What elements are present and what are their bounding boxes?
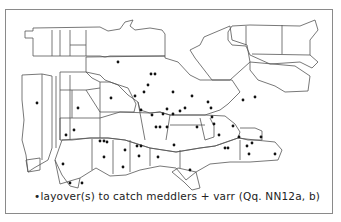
data-dot bbox=[36, 102, 39, 105]
data-dot bbox=[140, 109, 143, 112]
data-dot bbox=[232, 125, 235, 128]
data-dot bbox=[150, 73, 153, 76]
data-dot bbox=[147, 84, 150, 87]
data-dot bbox=[238, 136, 241, 139]
data-dot bbox=[62, 163, 65, 166]
data-dot bbox=[81, 182, 84, 185]
data-dot bbox=[207, 101, 210, 104]
data-dot bbox=[260, 136, 263, 139]
data-dot bbox=[103, 140, 106, 143]
data-dots bbox=[36, 61, 277, 185]
data-dot bbox=[213, 123, 216, 126]
data-dot bbox=[218, 134, 221, 137]
map-caption: •layover(s) to catch meddlers + varr (Qq… bbox=[34, 190, 334, 202]
data-dot bbox=[99, 140, 102, 143]
data-dot bbox=[155, 126, 158, 129]
data-dot bbox=[211, 116, 214, 119]
data-dot bbox=[143, 91, 146, 94]
data-dot bbox=[124, 149, 127, 152]
data-dot bbox=[196, 126, 199, 129]
data-dot bbox=[106, 141, 109, 144]
data-dot bbox=[73, 129, 76, 132]
data-dot bbox=[166, 108, 169, 111]
data-dot bbox=[251, 142, 254, 145]
data-dot bbox=[246, 145, 249, 148]
data-dot bbox=[138, 155, 141, 158]
data-dot bbox=[184, 107, 187, 110]
data-dot bbox=[274, 153, 277, 156]
data-dot bbox=[140, 145, 143, 148]
data-dot bbox=[103, 156, 106, 159]
data-dot bbox=[248, 153, 251, 156]
data-dot bbox=[122, 166, 125, 169]
data-dot bbox=[69, 182, 72, 185]
data-dot bbox=[159, 126, 162, 129]
data-dot bbox=[172, 113, 175, 116]
data-dot bbox=[173, 144, 176, 147]
data-dot bbox=[189, 169, 192, 172]
us-dot-map bbox=[0, 0, 341, 222]
data-dot bbox=[65, 134, 68, 137]
data-dot bbox=[157, 156, 160, 159]
data-dot bbox=[179, 110, 182, 113]
data-dot bbox=[134, 95, 137, 98]
data-dot bbox=[254, 96, 257, 99]
data-dot bbox=[162, 113, 165, 116]
data-dot bbox=[210, 107, 213, 110]
data-dot bbox=[224, 147, 227, 150]
data-dot bbox=[136, 145, 139, 148]
data-dot bbox=[227, 147, 230, 150]
data-dot bbox=[242, 99, 245, 102]
data-dot bbox=[166, 126, 169, 129]
data-dot bbox=[154, 73, 157, 76]
state-borders bbox=[22, 20, 318, 190]
data-dot bbox=[117, 61, 120, 64]
data-dot bbox=[191, 95, 194, 98]
data-dot bbox=[77, 107, 80, 110]
data-dot bbox=[110, 97, 113, 100]
data-dot bbox=[151, 114, 154, 117]
data-dot bbox=[172, 91, 175, 94]
